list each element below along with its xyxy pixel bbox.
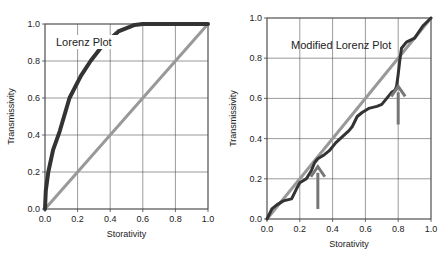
y-tick-label: 0.6 <box>249 93 262 103</box>
chart-annotation: Modified Lorenz Plot <box>291 39 391 51</box>
x-tick-label: 0.4 <box>326 224 339 234</box>
x-axis-label: Storativity <box>107 229 147 239</box>
chart-annotation: Lorenz Plot <box>56 36 112 48</box>
lorenz-chart: 0.00.20.40.60.81.00.00.20.40.60.81.0Stor… <box>6 19 214 239</box>
y-axis-label: Transmissivity <box>6 88 16 145</box>
x-tick-label: 0.6 <box>359 224 372 234</box>
y-tick-label: 0.2 <box>249 174 262 184</box>
x-tick-label: 0.2 <box>71 214 84 224</box>
y-axis-label: Transmissivity <box>228 90 238 147</box>
y-tick-label: 0.0 <box>27 204 40 214</box>
modified-lorenz-chart: 0.00.20.40.60.81.00.00.20.40.60.81.0Stor… <box>228 13 437 249</box>
y-tick-label: 0.0 <box>249 214 262 224</box>
x-tick-label: 0.0 <box>39 214 52 224</box>
x-tick-label: 0.0 <box>261 224 274 234</box>
x-tick-label: 0.8 <box>169 214 182 224</box>
y-tick-label: 0.8 <box>249 53 262 63</box>
arrow-up-icon <box>311 167 325 209</box>
x-axis-label: Storativity <box>329 239 369 249</box>
x-tick-label: 0.8 <box>392 224 405 234</box>
homogeneous-line <box>45 24 208 209</box>
y-tick-label: 0.2 <box>27 167 40 177</box>
y-tick-label: 0.8 <box>27 56 40 66</box>
x-tick-label: 0.2 <box>294 224 307 234</box>
y-tick-label: 0.4 <box>249 134 262 144</box>
y-tick-label: 0.4 <box>27 130 40 140</box>
y-tick-label: 1.0 <box>27 19 40 29</box>
x-tick-label: 0.4 <box>104 214 117 224</box>
figure: 0.00.20.40.60.81.00.00.20.40.60.81.0Stor… <box>0 0 448 259</box>
y-tick-label: 0.6 <box>27 93 40 103</box>
y-tick-label: 1.0 <box>249 13 262 23</box>
x-tick-label: 1.0 <box>425 224 438 234</box>
x-tick-label: 0.6 <box>137 214 150 224</box>
x-tick-label: 1.0 <box>202 214 215 224</box>
